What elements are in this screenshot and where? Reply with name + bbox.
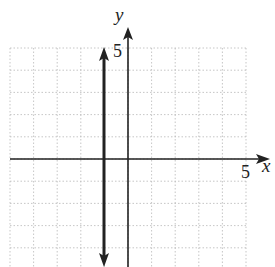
x-axis <box>10 154 270 164</box>
x-tick-label: 5 <box>241 162 250 182</box>
y-axis-label: y <box>113 4 124 25</box>
y-axis <box>123 27 133 267</box>
graph-line <box>99 47 109 267</box>
coordinate-plane: y 5 5 x <box>0 0 275 267</box>
x-axis-label: x <box>261 155 271 176</box>
y-tick-label: 5 <box>113 41 122 61</box>
